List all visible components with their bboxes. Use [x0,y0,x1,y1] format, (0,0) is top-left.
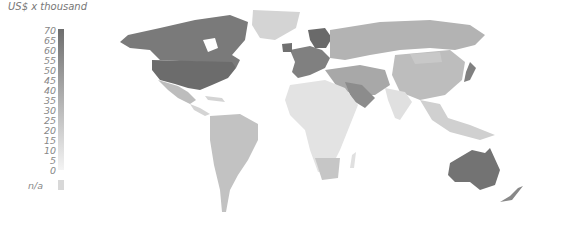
region-southeast-asia[interactable] [420,100,495,140]
region-canada[interactable] [120,15,248,68]
region-greenland[interactable] [252,10,300,40]
region-australia[interactable] [448,148,500,190]
region-south-america[interactable] [210,114,258,212]
region-western-europe[interactable] [290,46,330,78]
region-central-america[interactable] [190,104,210,116]
region-scandinavia[interactable] [308,28,332,48]
region-south-africa[interactable] [315,158,340,180]
world-map [0,0,562,231]
region-japan[interactable] [464,62,476,82]
region-new-zealand[interactable] [500,186,523,202]
